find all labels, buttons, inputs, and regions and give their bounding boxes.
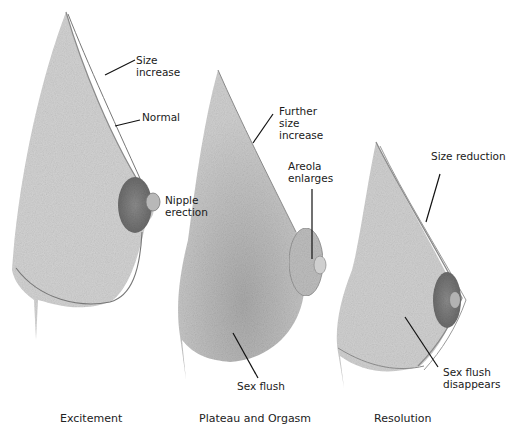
caption-resolution: Resolution — [374, 412, 431, 425]
label-sex-flush-disappears: Sex flush disappears — [443, 366, 501, 390]
label-line: size — [279, 117, 323, 129]
caption-plateau-orgasm: Plateau and Orgasm — [199, 412, 311, 425]
label-line: increase — [136, 66, 180, 78]
label-normal: Normal — [142, 111, 180, 123]
label-line: Size — [136, 54, 180, 66]
label-line: erection — [165, 206, 208, 218]
label-nipple-erection: Nipple erection — [165, 194, 208, 218]
label-line: Size reduction — [431, 150, 506, 162]
label-line: increase — [279, 129, 323, 141]
label-areola-enlarges: Areola enlarges — [288, 160, 333, 184]
label-line: Nipple — [165, 194, 208, 206]
label-further-size-increase: Further size increase — [279, 105, 323, 141]
label-line: disappears — [443, 378, 501, 390]
nipple-excitement — [146, 193, 160, 211]
label-line: Areola — [288, 160, 333, 172]
label-size-reduction: Size reduction — [431, 150, 506, 162]
label-line: enlarges — [288, 172, 333, 184]
label-line: Further — [279, 105, 323, 117]
nipple-resolution — [450, 292, 460, 308]
nipple-plateau — [314, 256, 326, 274]
label-line: Sex flush — [237, 380, 285, 392]
label-sex-flush: Sex flush — [237, 380, 285, 392]
resolution-breast — [337, 142, 466, 388]
label-size-increase: Size increase — [136, 54, 180, 78]
caption-excitement: Excitement — [60, 412, 122, 425]
label-line: Sex flush — [443, 366, 501, 378]
label-line: Normal — [142, 111, 180, 123]
